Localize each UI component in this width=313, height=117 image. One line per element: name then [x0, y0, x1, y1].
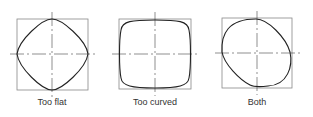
panel-both [215, 11, 300, 95]
label-too-flat: Too flat [7, 97, 97, 107]
label-both: Both [212, 97, 302, 107]
bounding-box [17, 19, 88, 90]
curve [17, 19, 88, 90]
panel-too-curved [112, 12, 198, 96]
panel-too-flat [10, 12, 96, 98]
label-too-curved: Too curved [110, 97, 200, 107]
